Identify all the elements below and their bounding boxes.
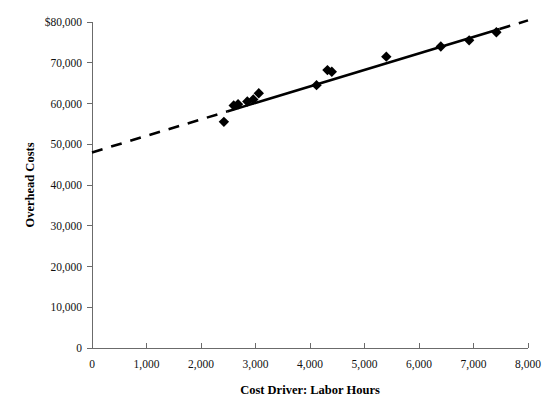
y-axis-title: Overhead Costs	[23, 142, 37, 227]
y-axis-tick-label: 10,000	[50, 301, 82, 314]
y-axis-tick-label: 40,000	[50, 179, 82, 192]
data-point-marker	[381, 51, 391, 61]
y-axis-tick-label: 60,000	[50, 98, 82, 111]
data-point-marker	[219, 117, 229, 127]
trend-line-dashed-left	[92, 111, 227, 152]
y-axis-tick-label: 0	[76, 342, 82, 354]
scatter-chart: 010,00020,00030,00040,00050,00060,00070,…	[0, 0, 551, 411]
trend-line-solid	[227, 29, 500, 112]
data-point-marker	[436, 41, 446, 51]
trend-line-dashed-right	[500, 20, 528, 29]
y-axis-tick-label: 70,000	[50, 57, 82, 70]
x-axis-tick-label: 4,000	[297, 358, 323, 371]
chart-canvas: 010,00020,00030,00040,00050,00060,00070,…	[0, 0, 551, 411]
x-axis-tick-label: 5,000	[352, 358, 378, 371]
x-axis-tick-label: 0	[89, 358, 95, 370]
x-axis-tick-label: 2,000	[188, 358, 214, 371]
x-axis-tick-label: 3,000	[243, 358, 269, 371]
y-axis-tick-label: 30,000	[50, 220, 82, 233]
y-axis-tick-label: 20,000	[50, 261, 82, 274]
x-axis-tick-label: 7,000	[461, 358, 487, 371]
y-axis-tick-label: $80,000	[45, 16, 83, 29]
x-axis-tick-label: 8,000	[515, 358, 541, 371]
x-axis-tick-label: 6,000	[406, 358, 432, 371]
data-point-marker	[311, 80, 321, 90]
x-axis-title: Cost Driver: Labor Hours	[240, 383, 380, 397]
y-axis-tick-label: 50,000	[50, 138, 82, 151]
x-axis-tick-label: 1,000	[134, 358, 160, 371]
